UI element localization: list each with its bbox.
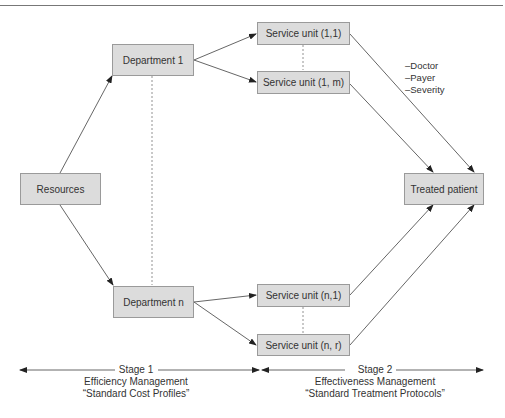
stage-2-line1: Effectiveness Management — [285, 376, 465, 388]
department-1-node: Department 1 — [112, 44, 194, 76]
department-n-node: Department n — [113, 286, 194, 318]
factor-severity: –Severity — [405, 84, 445, 96]
factor-payer: –Payer — [405, 72, 445, 84]
treated-patient-node: Treated patient — [404, 173, 484, 205]
stage-1-label: Stage 1 Efficiency Management “Standard … — [56, 364, 216, 400]
factors-list: –Doctor –Payer –Severity — [405, 60, 445, 96]
stage-2-line2: “Standard Treatment Protocols” — [285, 388, 465, 400]
service-unit-1-m-node: Service unit (1, m) — [257, 71, 350, 94]
stage-2-label: Stage 2 Effectiveness Management “Standa… — [285, 364, 465, 400]
resources-node: Resources — [20, 173, 101, 205]
service-unit-n-r-node: Service unit (n, r) — [257, 334, 350, 356]
stage-1-line2: “Standard Cost Profiles” — [56, 388, 216, 400]
stage-2-title: Stage 2 — [354, 364, 396, 376]
service-unit-n-1-node: Service unit (n,1) — [257, 284, 350, 307]
factor-doctor: –Doctor — [405, 60, 445, 72]
stage-1-title: Stage 1 — [115, 364, 157, 376]
stage-1-line1: Efficiency Management — [56, 376, 216, 388]
service-unit-1-1-node: Service unit (1,1) — [257, 22, 350, 45]
